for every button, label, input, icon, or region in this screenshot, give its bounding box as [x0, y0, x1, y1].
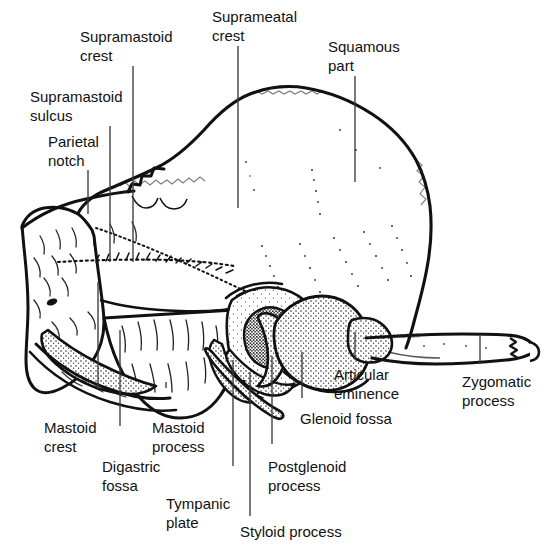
label-postglenoid-process: Postglenoid process — [268, 458, 346, 495]
label-styloid-process: Styloid process — [240, 523, 342, 542]
zygomatic-tip-suture — [510, 338, 518, 358]
label-mastoid-crest: Mastoid crest — [44, 419, 97, 456]
label-zygomatic-process: Zygomatic process — [462, 373, 531, 410]
label-supramastoid-sulcus: Supramastoid sulcus — [30, 88, 123, 125]
label-digastric-fossa: Digastric fossa — [102, 458, 160, 495]
zygomatic-tip — [530, 342, 539, 361]
styloid-stipple-dot-2 — [257, 392, 259, 394]
label-tympanic-plate: Tympanic plate — [166, 495, 230, 532]
styloid-stipple-dot — [243, 380, 246, 383]
label-articular-eminence: Articular eminence — [334, 366, 399, 403]
zygomatic-root-line — [388, 352, 440, 358]
label-parietal-notch: Parietal notch — [48, 133, 99, 170]
label-mastoid-process: Mastoid process — [152, 419, 205, 456]
zygomatic-stipple — [423, 343, 487, 349]
label-glenoid-fossa: Glenoid fossa — [300, 410, 392, 429]
label-squamous-part: Squamous part — [328, 38, 400, 75]
mastoid-process-upper-margin — [100, 300, 246, 311]
label-suprameatal-crest: Suprameatal crest — [212, 8, 297, 45]
label-supramastoid-crest: Supramastoid crest — [80, 28, 173, 65]
anatomical-figure: T. CAMERON Supramastoid crest Suprameata… — [0, 0, 556, 556]
